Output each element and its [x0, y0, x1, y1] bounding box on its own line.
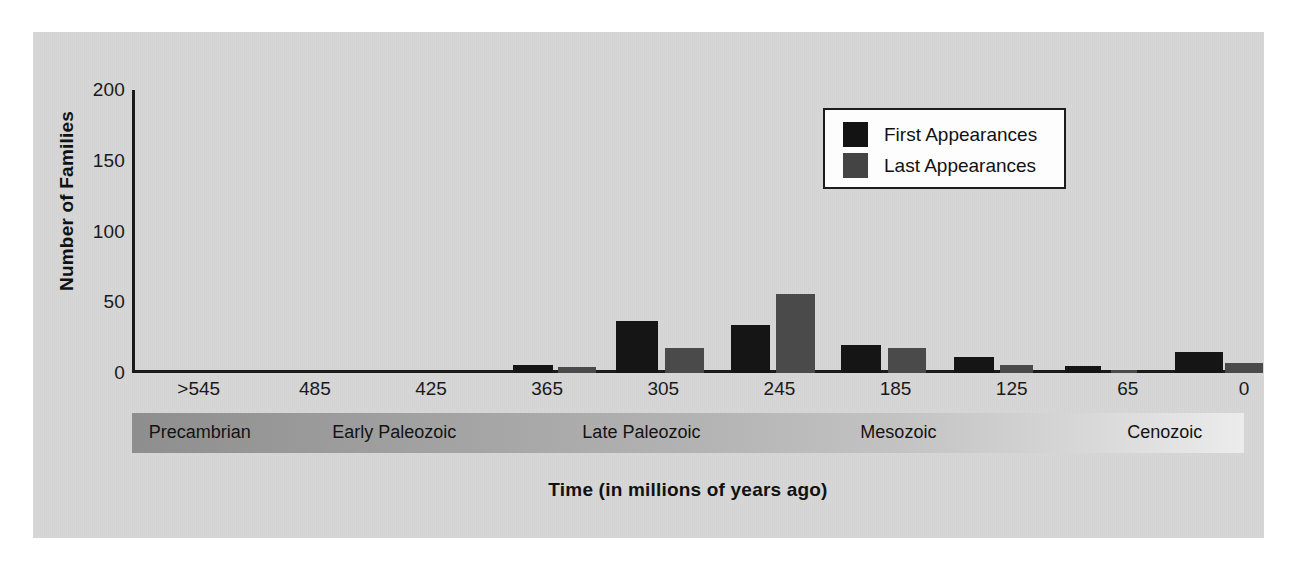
bar-last-appearances — [665, 348, 704, 373]
bar-first-appearances — [616, 321, 658, 373]
y-tick-label: 100 — [73, 221, 125, 243]
bar-last-appearances — [1225, 363, 1263, 373]
x-tick-label: 305 — [647, 378, 679, 400]
bar-last-appearances — [558, 367, 596, 373]
bar-first-appearances — [731, 325, 770, 373]
era-label: Cenozoic — [1127, 422, 1202, 443]
x-tick-label: 0 — [1239, 378, 1250, 400]
bar-group — [132, 90, 1244, 373]
legend-label: First Appearances — [884, 124, 1037, 146]
x-tick-label: 365 — [531, 378, 563, 400]
x-tick-label: >545 — [177, 378, 220, 400]
era-label: Late Paleozoic — [582, 422, 700, 443]
x-axis-tick-labels: >545485425365305245185125650 — [132, 378, 1244, 408]
x-tick-label: 125 — [996, 378, 1028, 400]
bar-first-appearances — [513, 365, 553, 373]
x-axis-title: Time (in millions of years ago) — [132, 479, 1244, 501]
era-label: Early Paleozoic — [332, 422, 456, 443]
x-tick-label: 485 — [299, 378, 331, 400]
bar-first-appearances — [841, 345, 881, 373]
legend-swatch-black-square — [843, 122, 868, 147]
x-tick-label: 185 — [880, 378, 912, 400]
x-tick-label: 245 — [764, 378, 796, 400]
geologic-era-band: PrecambrianEarly PaleozoicLate Paleozoic… — [132, 413, 1244, 453]
y-tick-label: 150 — [73, 150, 125, 172]
legend-label: Last Appearances — [884, 155, 1036, 177]
bar-first-appearances — [954, 357, 994, 373]
x-tick-label: 425 — [415, 378, 447, 400]
bar-last-appearances — [1000, 365, 1032, 373]
y-axis-title: Number of Families — [56, 81, 78, 321]
x-tick-label: 65 — [1117, 378, 1138, 400]
era-label: Precambrian — [149, 422, 251, 443]
bar-last-appearances — [1111, 370, 1138, 373]
legend-item: First Appearances — [843, 119, 1064, 150]
bar-first-appearances — [1175, 352, 1223, 373]
era-label: Mesozoic — [860, 422, 936, 443]
bar-first-appearances — [1065, 366, 1101, 373]
y-tick-label: 200 — [73, 79, 125, 101]
figure-canvas: 200150100500 Number of Families >5454854… — [0, 0, 1299, 579]
bar-last-appearances — [776, 294, 815, 373]
plot-area: 200150100500 Number of Families >5454854… — [33, 32, 1264, 538]
legend-item: Last Appearances — [843, 150, 1064, 181]
y-tick-label: 0 — [73, 362, 125, 384]
y-tick-label: 50 — [73, 291, 125, 313]
chart-panel: 200150100500 Number of Families >5454854… — [33, 32, 1264, 538]
chart-legend: First AppearancesLast Appearances — [823, 108, 1066, 189]
bar-last-appearances — [888, 348, 926, 373]
legend-swatch-gray-square — [843, 153, 868, 178]
